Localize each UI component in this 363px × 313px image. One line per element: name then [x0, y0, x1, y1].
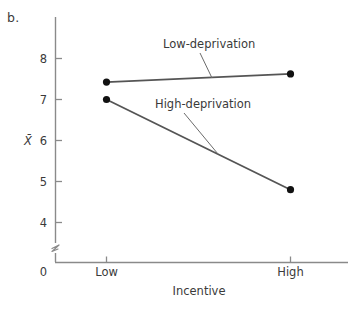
annotation-leader-low-deprivation [200, 53, 212, 78]
y-axis-title: X̄ [23, 134, 33, 148]
data-point-low-deprivation-low [103, 79, 110, 86]
origin-label: 0 [40, 265, 47, 279]
x-axis-title: Incentive [173, 284, 226, 298]
x-tick-labels-group: Low High [95, 265, 304, 279]
line-chart: 8 7 6 5 4 0 X̄ Low High Incentive [0, 0, 363, 313]
y-tick-label-4: 4 [40, 216, 47, 230]
x-tick-label-high: High [277, 265, 303, 279]
annotation-leader-high-deprivation [184, 113, 218, 154]
data-point-high-deprivation-high [287, 186, 294, 193]
annotation-label-high-deprivation: High-deprivation [155, 97, 251, 111]
series-low-deprivation [103, 70, 294, 85]
figure-panel-b: b. 8 7 6 5 4 0 X [0, 0, 363, 313]
y-tick-labels-group: 8 7 6 5 4 0 [40, 52, 47, 280]
y-tick-label-6: 6 [40, 134, 47, 148]
annotation-label-low-deprivation: Low-deprivation [163, 37, 255, 51]
x-ticks-group [107, 257, 291, 263]
data-point-high-deprivation-low [103, 96, 110, 103]
annotation-low-deprivation: Low-deprivation [163, 37, 255, 78]
panel-label: b. [7, 10, 19, 25]
y-ticks-group [56, 59, 63, 223]
data-point-low-deprivation-high [287, 70, 294, 77]
x-tick-label-low: Low [95, 265, 118, 279]
annotation-high-deprivation: High-deprivation [155, 97, 251, 154]
series-line-high-deprivation [107, 100, 291, 190]
y-tick-label-7: 7 [40, 93, 47, 107]
axis-break-icon [52, 245, 59, 252]
series-line-low-deprivation [107, 74, 291, 82]
y-tick-label-5: 5 [40, 175, 47, 189]
y-tick-label-8: 8 [40, 52, 47, 66]
